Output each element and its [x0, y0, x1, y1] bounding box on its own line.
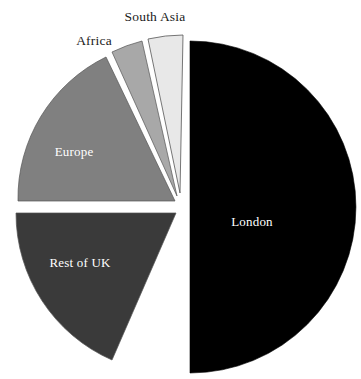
pie-slice-rest-of-uk[interactable] [16, 213, 176, 360]
pie-chart-canvas [0, 0, 361, 379]
pie-slices [16, 35, 356, 373]
pie-chart: London Rest of UK Europe Africa South As… [0, 0, 361, 379]
pie-slice-london[interactable] [190, 41, 356, 373]
